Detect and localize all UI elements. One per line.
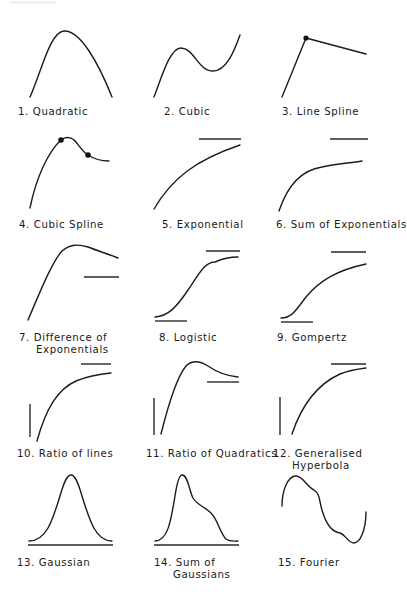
panel-label-generalised-hyperbola-line2: Hyperbola	[292, 460, 350, 472]
panel-label-exponential: 5. Exponential	[162, 219, 244, 231]
panel-label-generalised-hyperbola: 12. Generalised	[273, 448, 362, 460]
panel-label-ratio-of-quadratics: 11. Ratio of Quadratics	[146, 448, 277, 460]
panel-generalised-hyperbola-curve	[280, 364, 366, 435]
panel-sum-of-exponentials-curve	[279, 139, 368, 211]
panel-exponential-curve	[154, 139, 241, 209]
panel-label-cubic: 2. Cubic	[164, 106, 210, 118]
panel-gaussian-curve	[28, 475, 113, 545]
panel-fourier-curve	[282, 476, 366, 543]
panel-label-fourier: 15. Fourier	[278, 557, 340, 569]
panel-label-quadratic: 1. Quadratic	[18, 106, 88, 118]
panel-line-spline-curve	[282, 35, 366, 97]
panel-difference-of-exponentials-curve	[28, 245, 119, 320]
spline-knot-marker	[58, 137, 64, 143]
panel-label-gompertz: 9. Gompertz	[277, 332, 347, 344]
panel-label-difference-of-exponentials: 7. Difference of	[19, 332, 107, 344]
panel-ratio-of-quadratics-curve	[154, 362, 239, 435]
panel-label-logistic: 8. Logistic	[159, 332, 217, 344]
panel-label-ratio-of-lines: 10. Ratio of lines	[17, 448, 113, 460]
spline-knot-marker	[85, 152, 91, 158]
panel-cubic-curve	[154, 35, 240, 97]
panel-label-sum-of-exponentials: 6. Sum of Exponentials	[276, 219, 407, 231]
panel-quadratic-curve	[30, 31, 112, 97]
panel-sum-of-gaussians-curve	[154, 475, 239, 545]
panel-label-sum-of-gaussians: 14. Sum of	[154, 557, 215, 569]
panel-cubic-spline-curve	[30, 137, 109, 208]
panel-logistic-curve	[155, 251, 240, 321]
panel-label-gaussian: 13. Gaussian	[17, 557, 90, 569]
panel-label-line-spline: 3. Line Spline	[282, 106, 359, 118]
panel-ratio-of-lines-curve	[30, 364, 111, 441]
panel-gompertz-curve	[281, 252, 366, 322]
panel-label-cubic-spline: 4. Cubic Spline	[19, 219, 104, 231]
spline-knot-marker	[303, 35, 308, 40]
panel-label-difference-of-exponentials-line2: Exponentials	[36, 344, 109, 356]
panel-label-sum-of-gaussians-line2: Gaussians	[173, 569, 230, 581]
